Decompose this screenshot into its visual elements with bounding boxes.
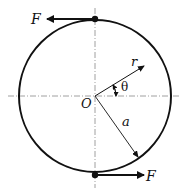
ring-force-diagram: F F r θ O a	[0, 0, 184, 192]
load-point-bottom	[92, 172, 98, 178]
load-point-top	[92, 16, 98, 22]
radial-coordinate-arrow	[95, 66, 144, 96]
radius-label: a	[122, 114, 130, 129]
force-label-top: F	[30, 11, 42, 27]
force-label-bottom: F	[145, 168, 157, 184]
angle-label: θ	[121, 80, 128, 94]
radius-arrow	[95, 96, 138, 157]
radial-coordinate-label: r	[131, 54, 138, 69]
origin-label: O	[81, 96, 92, 111]
